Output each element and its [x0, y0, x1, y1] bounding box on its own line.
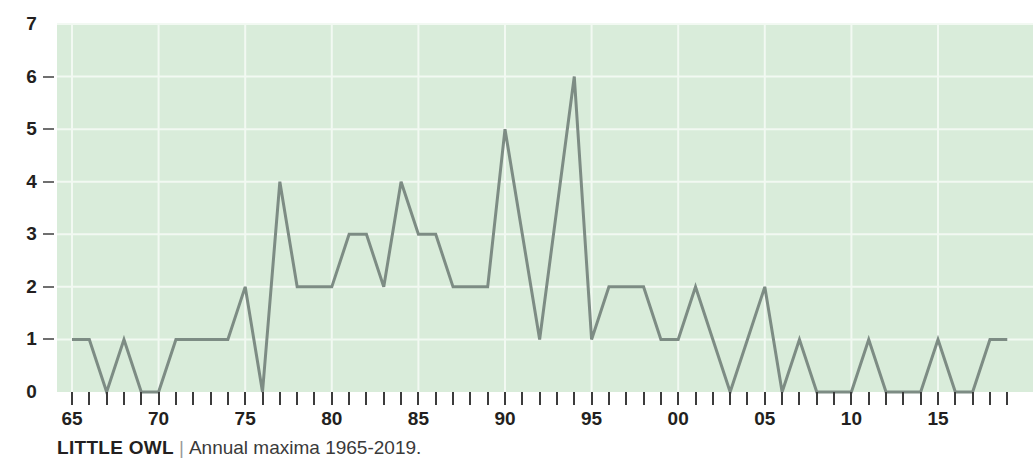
x-tick-mark	[192, 392, 194, 405]
x-tick-label: 05	[754, 408, 775, 430]
x-tick-mark	[88, 392, 90, 405]
x-tick-label: 95	[581, 408, 602, 430]
x-tick-mark	[244, 392, 246, 405]
y-tick-label: 5	[26, 118, 37, 140]
x-tick-mark	[348, 392, 350, 405]
x-tick-mark	[365, 392, 367, 405]
x-tick-mark	[140, 392, 142, 405]
x-tick-label: 15	[927, 408, 948, 430]
plot-area	[57, 24, 1033, 392]
x-tick-mark	[816, 392, 818, 405]
x-tick-mark	[833, 392, 835, 405]
x-tick-label: 00	[668, 408, 689, 430]
y-tick-mark	[43, 76, 54, 78]
x-tick-mark	[71, 392, 73, 405]
x-tick-mark	[591, 392, 593, 405]
y-tick-mark	[43, 233, 54, 235]
caption: LITTLE OWL|Annual maxima 1965-2019.	[57, 437, 421, 459]
x-tick-mark	[504, 392, 506, 405]
x-tick-label: 80	[321, 408, 342, 430]
x-tick-mark	[210, 392, 212, 405]
x-tick-mark	[902, 392, 904, 405]
x-tick-label: 65	[61, 408, 82, 430]
x-tick-mark	[781, 392, 783, 405]
x-tick-mark	[972, 392, 974, 405]
y-tick-label: 1	[26, 328, 37, 350]
x-tick-mark	[383, 392, 385, 405]
x-tick-mark	[123, 392, 125, 405]
x-tick-mark	[556, 392, 558, 405]
x-tick-mark	[400, 392, 402, 405]
caption-separator: |	[174, 437, 189, 458]
x-tick-mark	[954, 392, 956, 405]
y-tick-mark	[43, 286, 54, 288]
x-tick-mark	[262, 392, 264, 405]
x-tick-label: 70	[148, 408, 169, 430]
x-tick-mark	[331, 392, 333, 405]
chart-figure: 01234567 6570758085909500051015 LITTLE O…	[0, 0, 1033, 470]
x-tick-mark	[452, 392, 454, 405]
x-tick-mark	[608, 392, 610, 405]
y-tick-mark	[43, 181, 54, 183]
x-tick-mark	[660, 392, 662, 405]
x-tick-label: 85	[408, 408, 429, 430]
x-tick-mark	[435, 392, 437, 405]
x-tick-mark	[227, 392, 229, 405]
x-tick-label: 90	[494, 408, 515, 430]
caption-subtitle: Annual maxima 1965-2019.	[189, 437, 421, 458]
y-tick-label: 7	[26, 13, 37, 35]
y-tick-label: 4	[26, 171, 37, 193]
y-tick-label: 6	[26, 66, 37, 88]
y-tick-mark	[43, 128, 54, 130]
x-tick-mark	[868, 392, 870, 405]
x-tick-mark	[521, 392, 523, 405]
y-tick-label: 2	[26, 276, 37, 298]
x-tick-mark	[296, 392, 298, 405]
x-tick-mark	[677, 392, 679, 405]
x-tick-mark	[798, 392, 800, 405]
x-tick-mark	[625, 392, 627, 405]
x-tick-mark	[175, 392, 177, 405]
x-tick-mark	[989, 392, 991, 405]
x-tick-mark	[573, 392, 575, 405]
x-tick-mark	[764, 392, 766, 405]
x-tick-mark	[106, 392, 108, 405]
x-tick-mark	[539, 392, 541, 405]
x-tick-mark	[695, 392, 697, 405]
x-tick-mark	[885, 392, 887, 405]
x-tick-mark	[712, 392, 714, 405]
x-tick-mark	[937, 392, 939, 405]
x-tick-mark	[469, 392, 471, 405]
x-tick-mark	[1006, 392, 1008, 405]
series-line-annual-maxima	[57, 24, 1033, 392]
y-tick-label: 3	[26, 223, 37, 245]
x-tick-mark	[158, 392, 160, 405]
x-tick-mark	[746, 392, 748, 405]
x-tick-mark	[729, 392, 731, 405]
x-tick-mark	[920, 392, 922, 405]
x-tick-mark	[643, 392, 645, 405]
x-tick-mark	[417, 392, 419, 405]
x-tick-mark	[313, 392, 315, 405]
x-tick-mark	[279, 392, 281, 405]
x-axis: 6570758085909500051015	[0, 392, 1033, 432]
x-tick-label: 75	[235, 408, 256, 430]
caption-species: LITTLE OWL	[57, 437, 174, 458]
y-tick-mark	[43, 338, 54, 340]
x-tick-mark	[850, 392, 852, 405]
x-tick-mark	[487, 392, 489, 405]
x-tick-label: 10	[841, 408, 862, 430]
